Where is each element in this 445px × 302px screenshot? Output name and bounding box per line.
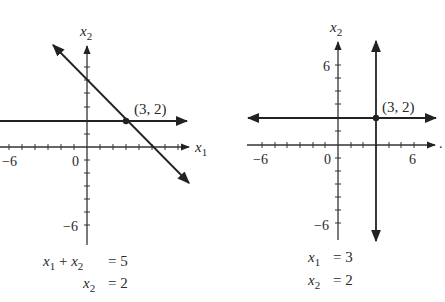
right-tick-label-6-y: 6: [323, 59, 330, 74]
right-eq1-rhs: = 3: [333, 249, 353, 265]
right-tick-label-neg6-x: −6: [253, 152, 268, 167]
right-x2-label: x2: [329, 19, 342, 38]
left-x2-label: x2: [79, 23, 92, 42]
left-tick-label-origin: 0: [72, 154, 79, 169]
left-eq2-lhs: x2: [82, 275, 95, 294]
right-tick-label-6-x: 6: [409, 152, 416, 167]
right-x1-label-partial: .: [439, 136, 443, 151]
left-eq1-rhs: = 5: [108, 253, 128, 269]
left-panel: (3, 2) x2 x1 −6 0 −6 x1 + x2 = 5 x2 = 2: [0, 23, 207, 294]
figure: (3, 2) x2 x1 −6 0 −6 x1 + x2 = 5 x2 = 2: [0, 0, 445, 302]
left-equations: x1 + x2 = 5 x2 = 2: [42, 253, 128, 294]
left-eq2-rhs: = 2: [108, 275, 128, 291]
left-point-label: (3, 2): [134, 101, 167, 118]
right-intersection-point: [373, 115, 379, 121]
right-panel: (3, 2) x2 . 6 −6 0 6 −6 x1 = 3 x2 = 2: [247, 19, 443, 291]
right-point-label: (3, 2): [382, 99, 415, 116]
left-tick-label-neg6-y: −6: [63, 219, 78, 234]
left-x1-label: x1: [194, 139, 207, 158]
right-tick-label-neg6-y: −6: [314, 218, 329, 233]
right-eq2-rhs: = 2: [333, 272, 353, 288]
left-intersection-point: [123, 118, 129, 124]
right-tick-label-origin: 0: [324, 152, 331, 167]
right-eq2-lhs: x2: [307, 272, 320, 291]
left-tick-label-neg6-x: −6: [2, 154, 17, 169]
right-equations: x1 = 3 x2 = 2: [307, 249, 353, 291]
right-eq1-lhs: x1: [307, 249, 320, 268]
left-eq1-lhs: x1 + x2: [42, 253, 83, 272]
